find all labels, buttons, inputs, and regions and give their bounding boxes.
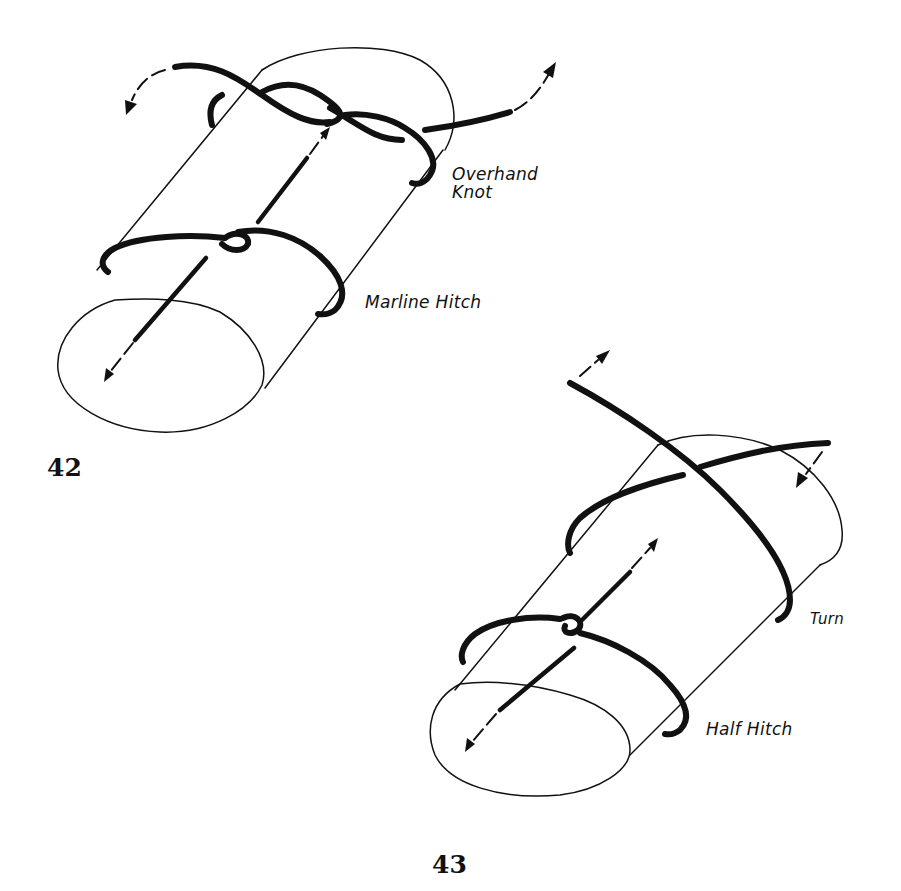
label-marline-hitch: Marline Hitch [365, 293, 481, 311]
figure-number-43: 43 [432, 850, 467, 879]
label-overhand-knot: Overhand Knot [452, 165, 538, 201]
knot-illustration [0, 0, 901, 891]
label-turn: Turn [810, 610, 844, 628]
half-hitch-rope [462, 538, 686, 752]
label-overhand-line1: Overhand [452, 165, 538, 183]
label-half-hitch: Half Hitch [706, 720, 793, 738]
label-overhand-line2: Knot [452, 183, 538, 201]
turn-rope [568, 350, 828, 620]
marline-hitch-rope [103, 230, 343, 314]
cylinder-42 [58, 48, 454, 432]
figure-42-drawing [58, 48, 556, 432]
figure-number-42: 42 [47, 453, 82, 482]
standing-part-42 [104, 127, 330, 382]
